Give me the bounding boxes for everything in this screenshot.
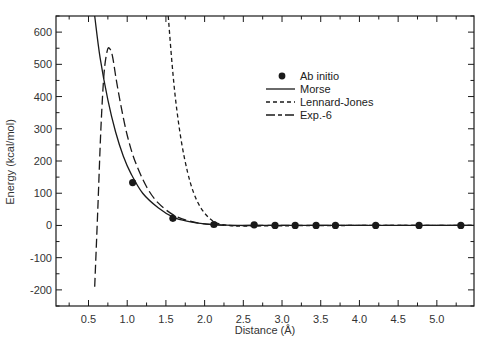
potential-energy-chart: 0.51.01.52.02.53.03.54.04.55.0 -200-1000… xyxy=(0,0,489,350)
y-tick-label: 100 xyxy=(34,187,52,199)
ab-initio-point xyxy=(251,221,258,228)
x-tick-label: 3.5 xyxy=(313,313,328,325)
legend-item-morse: Morse xyxy=(266,83,331,95)
x-tick-label: 0.5 xyxy=(81,313,96,325)
legend-item-exp-6: Exp.-6 xyxy=(266,109,332,121)
plot-frame xyxy=(56,16,474,306)
y-axis: -200-1000100200300400500600 xyxy=(30,16,474,306)
x-tick-label: 2.0 xyxy=(197,313,212,325)
exp-6-curve xyxy=(95,48,474,287)
x-tick-label: 1.0 xyxy=(120,313,135,325)
legend: Ab initioMorseLennard-JonesExp.-6 xyxy=(266,70,374,121)
y-tick-label: 0 xyxy=(46,219,52,231)
series-layer xyxy=(95,16,474,287)
plot-border xyxy=(56,16,474,306)
legend-label: Exp.-6 xyxy=(300,109,332,121)
legend-label: Ab initio xyxy=(300,70,339,82)
y-tick-label: 400 xyxy=(34,91,52,103)
legend-label: Lennard-Jones xyxy=(300,96,374,108)
legend-item-lennard-jones: Lennard-Jones xyxy=(266,96,374,108)
x-axis-label: Distance (Å) xyxy=(235,324,296,336)
y-tick-label: 300 xyxy=(34,123,52,135)
y-tick-label: -100 xyxy=(30,252,52,264)
y-tick-label: 500 xyxy=(34,58,52,70)
lennard-jones-curve xyxy=(168,16,474,226)
y-tick-label: 600 xyxy=(34,26,52,38)
legend-label: Morse xyxy=(300,83,331,95)
x-tick-label: 1.5 xyxy=(158,313,173,325)
legend-item-ab-initio: Ab initio xyxy=(279,70,340,82)
y-tick-label: 200 xyxy=(34,155,52,167)
y-axis-label: Energy (kcal/mol) xyxy=(4,119,16,205)
filled-circle-icon xyxy=(279,73,286,80)
x-tick-label: 5.0 xyxy=(429,313,444,325)
x-axis: 0.51.01.52.02.53.03.54.04.55.0 xyxy=(69,16,456,325)
x-tick-label: 4.0 xyxy=(352,313,367,325)
y-tick-label: -200 xyxy=(30,284,52,296)
x-tick-label: 4.5 xyxy=(390,313,405,325)
